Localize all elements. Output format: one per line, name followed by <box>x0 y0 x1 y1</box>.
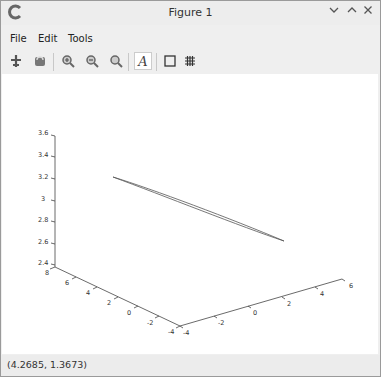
cursor-coordinates: (4.2685, 1.3673) <box>7 359 87 370</box>
svg-text:6: 6 <box>349 282 353 290</box>
zoom-out-button[interactable] <box>83 52 101 70</box>
menu-file[interactable]: File <box>10 33 27 44</box>
menu-edit[interactable]: Edit <box>38 33 57 44</box>
svg-text:8: 8 <box>45 269 49 277</box>
figure-window: Figure 1 File Edit Tools <box>0 0 381 377</box>
z-tick-label: 3.4 <box>38 151 48 159</box>
rotate-icon <box>33 54 47 68</box>
pan-button[interactable] <box>7 52 25 70</box>
svg-text:4: 4 <box>86 289 90 297</box>
zoom-in-icon <box>61 54 75 68</box>
maximize-button[interactable] <box>345 5 359 18</box>
grid-button[interactable] <box>181 52 199 70</box>
z-tick-label: 2.6 <box>38 238 48 246</box>
title-bar[interactable]: Figure 1 <box>1 1 380 25</box>
menu-tools[interactable]: Tools <box>68 33 93 44</box>
z-axis: 3.6 3.4 3.2 3 2.8 2.6 2.4 <box>38 129 55 267</box>
plot-canvas[interactable]: 3.6 3.4 3.2 3 2.8 2.6 2.4 8 6 4 2 0 -2 -… <box>2 74 378 354</box>
3d-plot: 3.6 3.4 3.2 3 2.8 2.6 2.4 8 6 4 2 0 -2 -… <box>2 74 378 354</box>
z-tick-label: 3.6 <box>38 129 48 137</box>
toolbar-separator <box>53 53 54 71</box>
toolbar: A <box>1 49 380 73</box>
zoom-out-icon <box>85 54 99 68</box>
svg-text:-2: -2 <box>218 319 224 327</box>
text-icon: A <box>138 54 147 69</box>
z-tick-label: 2.8 <box>38 216 48 224</box>
close-button[interactable] <box>361 5 375 18</box>
axes-box-button[interactable] <box>161 52 179 70</box>
plot-curve <box>113 177 284 241</box>
toolbar-separator <box>128 53 129 71</box>
menu-bar: File Edit Tools <box>1 29 380 49</box>
zoom-reset-button[interactable] <box>107 52 125 70</box>
minimize-button[interactable] <box>327 5 341 18</box>
svg-text:4: 4 <box>320 290 324 298</box>
z-tick-label: 2.4 <box>38 259 48 267</box>
box-icon <box>163 54 177 68</box>
svg-text:0: 0 <box>127 309 131 317</box>
status-bar: (4.2685, 1.3673) <box>1 355 380 376</box>
svg-text:0: 0 <box>253 309 257 317</box>
svg-text:6: 6 <box>65 279 69 287</box>
z-tick-label: 3 <box>41 195 45 203</box>
zoom-in-button[interactable] <box>59 52 77 70</box>
x-axis: -4 -2 0 2 4 6 <box>180 279 353 337</box>
pan-icon <box>9 54 23 68</box>
grid-icon <box>183 54 197 68</box>
svg-text:-2: -2 <box>147 319 153 327</box>
toolbar-separator <box>156 53 157 71</box>
window-title: Figure 1 <box>1 6 380 19</box>
svg-text:-4: -4 <box>168 328 174 336</box>
svg-text:-4: -4 <box>183 329 189 337</box>
svg-text:2: 2 <box>287 300 291 308</box>
text-button[interactable]: A <box>134 52 152 70</box>
z-tick-label: 3.2 <box>38 173 48 181</box>
y-axis: 8 6 4 2 0 -2 -4 <box>45 267 180 336</box>
rotate-button[interactable] <box>31 52 49 70</box>
zoom-reset-icon <box>109 54 123 68</box>
svg-text:2: 2 <box>107 299 111 307</box>
